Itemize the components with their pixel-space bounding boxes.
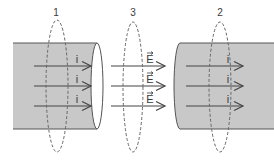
loop-label-1: 1 <box>53 7 59 18</box>
current-label: i <box>76 53 78 65</box>
electric-field-label: E <box>146 73 153 85</box>
loop-label-3: 3 <box>130 7 136 18</box>
loop-label-2: 2 <box>217 7 223 18</box>
capacitor-displacement-current-diagram: iEiiEiiEi132 <box>0 0 274 162</box>
current-label: i <box>76 93 78 105</box>
electric-field-label: E <box>146 93 153 105</box>
electric-field-arrow <box>111 102 165 111</box>
amperian-loop-3 <box>123 22 143 152</box>
left-plate-face <box>91 43 103 129</box>
electric-field-arrow <box>111 82 165 91</box>
current-label: i <box>76 73 78 85</box>
current-label: i <box>227 73 229 85</box>
electric-field-label: E <box>146 53 153 65</box>
current-label: i <box>227 93 229 105</box>
diagram-canvas: iEiiEiiEi132 <box>0 0 274 162</box>
electric-field-arrow <box>111 62 165 71</box>
current-label: i <box>227 53 229 65</box>
